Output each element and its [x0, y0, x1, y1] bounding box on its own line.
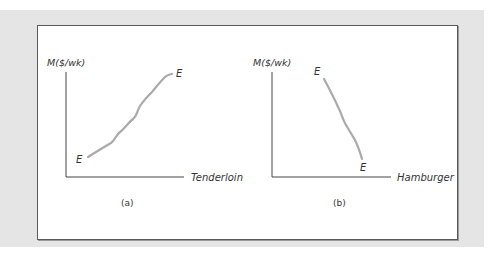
- curve-label-start-a: E: [76, 154, 83, 165]
- engel-curves-figure: M($/wk) Tenderloin E E (a) M($/wk) Hambu…: [0, 0, 496, 263]
- panel-caption-b: (b): [333, 198, 346, 208]
- panel-a: M($/wk) Tenderloin E E (a): [47, 57, 243, 208]
- panel-b: M($/wk) Hamburger E E (b): [253, 57, 455, 208]
- curve-label-end-a: E: [176, 68, 183, 79]
- y-axis-label-b: M($/wk): [253, 57, 291, 68]
- panel-caption-a: (a): [121, 198, 134, 208]
- engel-curve-b: [324, 79, 362, 159]
- curve-label-start-b: E: [314, 66, 321, 77]
- x-axis-label-b: Hamburger: [397, 172, 455, 183]
- y-axis-label-a: M($/wk): [47, 57, 85, 68]
- curve-label-end-b: E: [360, 162, 367, 173]
- engel-curve-a: [88, 74, 172, 157]
- x-axis-label-a: Tenderloin: [191, 172, 243, 183]
